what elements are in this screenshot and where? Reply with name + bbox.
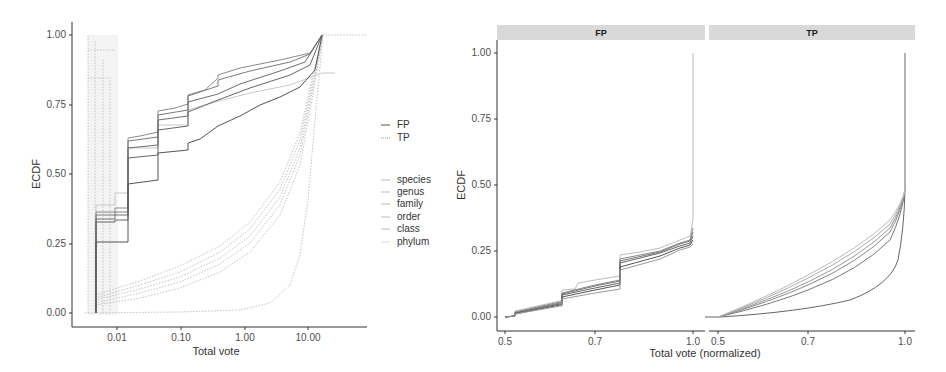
legend-item-order: order [381,211,421,222]
left-chart: 1.00 0.75 0.50 0.25 0.00 0.01 0.10 1.00 … [30,22,367,357]
left-x-tick-1000: 10.00 [295,332,320,343]
left-x-ticks: 0.01 0.10 1.00 10.00 [107,327,321,343]
left-y-tick-075: 0.75 [47,99,67,110]
right-y-tick-100: 1.00 [472,47,492,58]
svg-text:FP: FP [397,119,410,130]
left-x-tick-100: 1.00 [235,332,255,343]
right-y-tick-025: 0.25 [472,245,492,256]
tp-curves [705,53,905,317]
legend-item-phylum: phylum [381,236,429,247]
right-y-ticks: 1.00 0.75 0.50 0.25 0.00 [472,47,497,322]
left-y-axis-title: ECDF [30,159,42,189]
left-y-tick-025: 0.25 [47,238,67,249]
right-chart: ECDF 1.00 0.75 0.50 0.25 0.00 FP 0.5 0.7… [455,25,915,359]
figure: 1.00 0.75 0.50 0.25 0.00 0.01 0.10 1.00 … [0,0,946,372]
tp-x-tick-07: 0.7 [801,336,815,347]
facet-strip-label-fp: FP [595,28,607,38]
right-y-tick-050: 0.50 [472,179,492,190]
legend-item-species: species [381,174,431,185]
fp-x-tick-10: 1.0 [686,336,700,347]
tp-x-tick-05: 0.5 [711,336,725,347]
facet-fp: FP 0.5 0.7 1.0 [497,25,705,347]
left-fp-curves [96,35,335,313]
left-x-axis-title: Total vote [192,345,239,357]
right-y-tick-000: 0.00 [472,311,492,322]
legend-item-fp: FP [381,119,410,130]
legend-item-tp: TP [381,132,410,143]
svg-text:species: species [397,174,431,185]
fp-x-tick-05: 0.5 [498,336,512,347]
right-y-axis-title: ECDF [455,170,467,200]
svg-text:order: order [397,211,421,222]
fp-x-tick-07: 0.7 [588,336,602,347]
left-y-tick-100: 1.00 [47,29,67,40]
facet-strip-label-tp: TP [806,28,818,38]
svg-text:phylum: phylum [397,236,429,247]
svg-text:TP: TP [397,132,410,143]
svg-text:family: family [397,198,423,209]
left-x-tick-001: 0.01 [107,332,127,343]
facet-tp: TP 0.5 0.7 1.0 [705,25,915,347]
legend-item-class: class [381,223,420,234]
left-tp-curves [85,35,367,313]
legend-item-family: family [381,198,423,209]
legend: FP TP species genus family order class [381,119,431,247]
left-y-ticks: 1.00 0.75 0.50 0.25 0.00 [47,29,72,318]
tp-x-tick-10: 1.0 [898,336,912,347]
left-x-tick-010: 0.10 [171,332,191,343]
svg-text:class: class [397,223,420,234]
svg-text:genus: genus [397,186,424,197]
left-y-tick-000: 0.00 [47,307,67,318]
right-y-tick-075: 0.75 [472,113,492,124]
right-x-axis-title: Total vote (normalized) [649,347,760,359]
legend-item-genus: genus [381,186,424,197]
fp-curves [505,53,693,317]
left-y-tick-050: 0.50 [47,168,67,179]
